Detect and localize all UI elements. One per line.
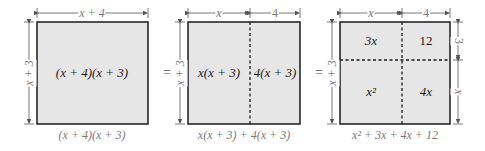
panel-3-caption: x² + 3x + 4x + 12 <box>352 128 438 143</box>
panel-3-top-dim-x: x <box>367 6 374 21</box>
panel-2-top-dimension <box>188 8 300 18</box>
panel-3-right-dim-x: x <box>451 88 466 95</box>
panel-3-right-dim-3: 3 <box>451 37 466 45</box>
panel-3-top-dim-4: 4 <box>422 6 430 21</box>
panel-1-region-label: (x + 4)(x + 3) <box>56 65 128 81</box>
panel-2-region-right: 4(x + 3) <box>254 65 297 81</box>
panel-3-region-4x: 4x <box>420 84 432 100</box>
panel-3-top-dimension <box>340 8 450 18</box>
panel-2-top-dim-4: 4 <box>271 6 279 21</box>
panel-2-caption: x(x + 3) + 4(x + 3) <box>198 128 290 143</box>
panel-2-top-dim-x: x <box>215 6 222 21</box>
panel-3-region-12: 12 <box>420 33 433 49</box>
panel-3-left-dim-label: x + 3 <box>325 59 340 86</box>
panel-3-box <box>340 22 450 124</box>
panel-1-top-dim-label: x + 4 <box>78 6 105 21</box>
equals-sign-1: = <box>163 65 171 81</box>
panel-3-region-x-squared: x² <box>366 84 376 100</box>
panel-2-left-dim-label: x + 3 <box>173 59 188 86</box>
panel-1-caption: (x + 4)(x + 3) <box>59 128 126 143</box>
equals-sign-2: = <box>315 65 323 81</box>
panel-1-left-dim-label: x + 3 <box>22 59 37 86</box>
panel-3-region-3x: 3x <box>365 33 377 49</box>
panel-2-region-left: x(x + 3) <box>198 65 240 81</box>
